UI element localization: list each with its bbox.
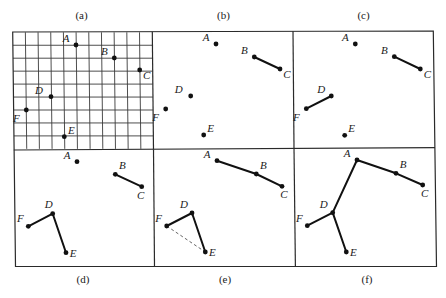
panel-caption-c: (c) [357,9,370,22]
node-B [254,172,259,177]
node-B [394,171,399,176]
node-E [203,250,208,255]
node-F [305,223,310,228]
row-divider [14,148,435,150]
column-divider [152,32,153,150]
node-label-B: B [381,44,388,56]
node-label-A: A [62,32,70,44]
panel-caption-f: (f) [362,273,373,286]
grid-line-vertical [89,32,90,149]
panel-a-grid [13,32,154,149]
tree-edge-DF [307,213,332,226]
node-label-D: D [319,198,328,210]
node-label-E: E [69,247,77,259]
candidate-edge-FE [167,226,206,252]
node-label-E: E [206,122,214,134]
grid-line-vertical [51,32,52,149]
node-label-D: D [44,198,53,210]
panel-caption-e: (e) [219,273,232,286]
node-B [113,172,118,177]
node-label-D: D [34,84,43,96]
node-E [201,133,206,138]
node-label-F: F [295,212,303,224]
panel-b: (b)ABCDEF [151,9,291,137]
node-C [137,68,142,73]
node-label-B: B [119,159,126,171]
node-D [49,94,54,99]
node-label-C: C [137,189,145,201]
node-label-C: C [143,69,151,81]
panel-c: (c)ABCDEF [292,9,432,138]
node-label-D: D [174,83,183,95]
node-E [342,133,347,138]
node-A [353,42,358,47]
node-label-D: D [316,83,325,95]
node-F [24,108,29,113]
tree-edge-BC [115,174,141,186]
panel-caption-b: (b) [217,9,230,22]
grid-line-vertical [76,32,77,149]
node-B [392,54,397,59]
figure-mst-construction: (a)ABCDEF(b)ABCDEF(c)ABCDEF(d)ABCDEF(e)A… [0,0,446,298]
node-D [188,94,193,99]
node-label-A: A [63,149,71,161]
node-label-C: C [421,187,429,199]
diagram-canvas: (a)ABCDEF(b)ABCDEF(c)ABCDEF(d)ABCDEF(e)A… [0,0,446,298]
panel-e: (e)ABCDEF [154,148,288,286]
node-label-B: B [400,158,407,170]
panel-f: (f)ABCDEF [295,147,429,286]
node-label-D: D [179,198,188,210]
grid-line-vertical [127,32,128,149]
tree-edge-AB [357,160,396,173]
node-D [330,210,335,215]
node-A [355,158,360,163]
grid-line-vertical [63,32,64,149]
node-label-F: F [151,111,159,123]
tree-edge-BC [396,173,423,185]
grid-line-vertical [25,32,26,149]
panel-caption-a: (a) [75,9,88,22]
node-label-E: E [208,246,216,258]
node-label-F: F [154,212,162,224]
column-divider [294,148,295,266]
node-A [214,42,219,47]
node-label-A: A [203,148,211,160]
node-label-C: C [280,188,288,200]
node-D [50,211,55,216]
node-label-E: E [349,246,357,258]
node-label-F: F [12,112,20,124]
node-B [252,55,257,60]
tree-edge-DE [192,213,205,252]
node-label-B: B [241,44,248,56]
column-divider [293,31,294,148]
node-label-B: B [260,159,267,171]
node-label-B: B [101,45,108,57]
node-label-F: F [16,212,24,224]
node-E [64,250,69,255]
grid-line-vertical [114,32,115,149]
tree-edge-DF [28,214,52,227]
tree-edge-BC [394,57,420,69]
panel-a: (a)ABCDEF [12,9,151,139]
node-label-F: F [292,111,300,123]
node-label-E: E [347,122,355,134]
tree-edge-AD [333,160,357,213]
tree-edge-DE [333,213,347,252]
node-B [112,56,117,61]
node-E [344,250,349,255]
node-A [215,158,220,163]
node-D [329,94,334,99]
node-label-A: A [343,147,351,159]
node-label-A: A [341,31,349,43]
node-A [74,43,79,48]
node-D [190,211,195,216]
panel-d: (d)ABCDEF [16,149,145,286]
tree-edge-AB [217,161,256,174]
node-F [304,106,309,111]
node-A [75,159,80,164]
tree-edge-BC [254,57,280,69]
tree-edge-DF [306,96,331,109]
tree-edge-BC [256,174,282,186]
node-F [26,224,31,229]
node-label-A: A [202,31,210,43]
